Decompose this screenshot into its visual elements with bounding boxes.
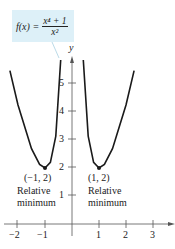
formula: f(x) = x⁴ + 1 x²: [16, 16, 68, 37]
x-tick-label: 3: [150, 229, 155, 240]
right-branch-curve: [83, 60, 134, 168]
min-right-label-line1: Relative: [88, 185, 121, 196]
min-left-label-line2: minimum: [17, 197, 56, 208]
y-tick-label: 2: [59, 161, 64, 172]
formula-numerator: x⁴ + 1: [42, 16, 67, 27]
formula-pointer: [52, 42, 59, 58]
x-axis-arrow-icon: [168, 222, 175, 226]
formula-fraction: x⁴ + 1 x²: [42, 16, 67, 37]
formula-lhs: f(x) =: [16, 21, 39, 32]
y-tick-label: 1: [59, 189, 64, 200]
x-tick-label: −2: [9, 229, 20, 240]
formula-box: f(x) = x⁴ + 1 x²: [12, 10, 74, 42]
x-tick-label: 2: [123, 229, 128, 240]
left-branch-curve: [10, 60, 61, 168]
minimum-point-right: [97, 166, 101, 170]
y-axis-label: y: [69, 42, 73, 53]
x-tick-label: 1: [96, 229, 101, 240]
min-left-label-line1: Relative: [17, 185, 50, 196]
min-left-coord: (−1, 2): [24, 172, 51, 183]
formula-denominator: x²: [51, 27, 58, 37]
min-right-label-line2: minimum: [88, 197, 127, 208]
y-tick-label: 5: [59, 77, 64, 88]
x-tick-label: −1: [37, 229, 48, 240]
minimum-point-left: [43, 166, 47, 170]
min-right-coord: (1, 2): [88, 172, 110, 183]
y-tick-label: 4: [59, 105, 64, 116]
y-tick-label: 3: [59, 133, 64, 144]
y-axis-arrow-icon: [70, 56, 74, 63]
